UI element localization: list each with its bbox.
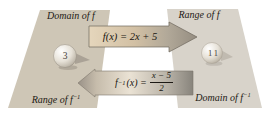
range-f-inverse-base: Range of f — [32, 94, 73, 105]
fraction-denominator: 2 — [150, 83, 173, 94]
domain-f-inverse-label: Domain of f−1 — [190, 91, 256, 103]
range-f-label: Range of f — [171, 9, 227, 20]
domain-f-label: Domain of f — [40, 10, 102, 21]
range-f-inverse-label: Range of f−1 — [26, 93, 86, 105]
inverse-function-formula: f−1(x) = x − 5 2 — [96, 69, 192, 96]
inverse-equals: (x) = — [126, 77, 146, 88]
forward-function-formula: f(x) = 2x + 5 — [90, 26, 170, 47]
fraction-numerator: x − 5 — [150, 71, 173, 83]
domain-f-inverse-base: Domain of f — [195, 92, 243, 103]
range-f-inverse-sup: −1 — [73, 93, 81, 100]
inverse-fraction: x − 5 2 — [150, 71, 173, 94]
input-value: 3 — [58, 51, 72, 61]
domain-f-inverse-sup: −1 — [243, 91, 251, 98]
output-value: 11 — [203, 48, 223, 58]
inverse-exponent: −1 — [118, 79, 126, 86]
inverse-function-diagram: Domain of f Range of f Range of f−1 Doma… — [0, 0, 272, 114]
